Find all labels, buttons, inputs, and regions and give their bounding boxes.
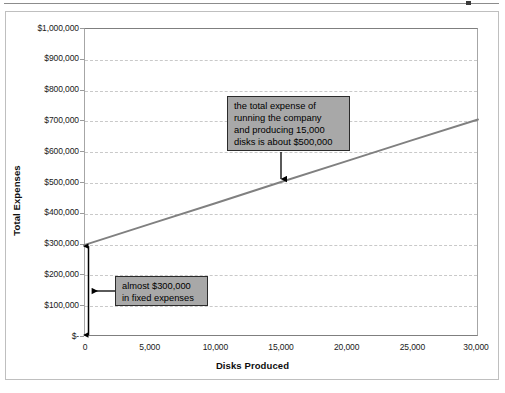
x-axis-tick-label: 30,000 <box>463 342 488 352</box>
y-axis-tick-label: $600,000 <box>44 146 79 156</box>
y-axis-tick-mark <box>80 336 84 337</box>
y-axis-tick-mark <box>80 274 84 275</box>
x-axis-tick-label: 25,000 <box>400 342 425 352</box>
y-axis-tick-label: $- <box>72 331 79 341</box>
total-expense-callout: the total expense of running the company… <box>227 96 350 151</box>
x-axis-tick-label: 5,000 <box>139 342 160 352</box>
y-axis-tick-label: $100,000 <box>44 300 79 310</box>
y-axis-tick-label: $700,000 <box>44 115 79 125</box>
y-axis-tick-label: $200,000 <box>44 269 79 279</box>
y-axis-tick-mark <box>80 28 84 29</box>
y-axis-title: Total Expenses <box>11 141 22 261</box>
x-axis-tick-label: 0 <box>83 342 88 352</box>
y-axis-tick-mark <box>80 305 84 306</box>
fixed-expense-callout: almost $300,000 in fixed expenses <box>115 276 208 306</box>
x-axis-title: Disks Produced <box>0 360 505 371</box>
gridline <box>85 214 477 215</box>
gridline <box>85 183 477 184</box>
gridline <box>85 91 477 92</box>
gridline <box>85 60 477 61</box>
y-axis-tick-label: $800,000 <box>44 84 79 94</box>
y-axis-tick-label: $500,000 <box>44 177 79 187</box>
x-axis-tick-label: 10,000 <box>203 342 228 352</box>
y-axis-tick-label: $900,000 <box>44 53 79 63</box>
x-axis-tick-label: 20,000 <box>334 342 359 352</box>
y-axis-tick-mark <box>80 244 84 245</box>
y-axis-tick-label: $400,000 <box>44 207 79 217</box>
gridline <box>85 245 477 246</box>
gridline <box>85 306 477 307</box>
gridline <box>85 152 477 153</box>
y-axis-tick-mark <box>80 151 84 152</box>
y-axis-tick-label: $1,000,000 <box>37 23 79 33</box>
y-axis-tick-mark <box>80 213 84 214</box>
y-axis-tick-label: $300,000 <box>44 238 79 248</box>
page-top-rule <box>4 3 499 4</box>
y-axis-tick-mark <box>80 59 84 60</box>
page-top-tick-mark <box>466 1 471 5</box>
x-axis-tick-label: 15,000 <box>268 342 293 352</box>
y-axis-tick-mark <box>80 182 84 183</box>
chart-page: $-$100,000$200,000$300,000$400,000$500,0… <box>0 0 505 393</box>
y-axis-tick-mark <box>80 120 84 121</box>
y-axis-tick-mark <box>80 90 84 91</box>
